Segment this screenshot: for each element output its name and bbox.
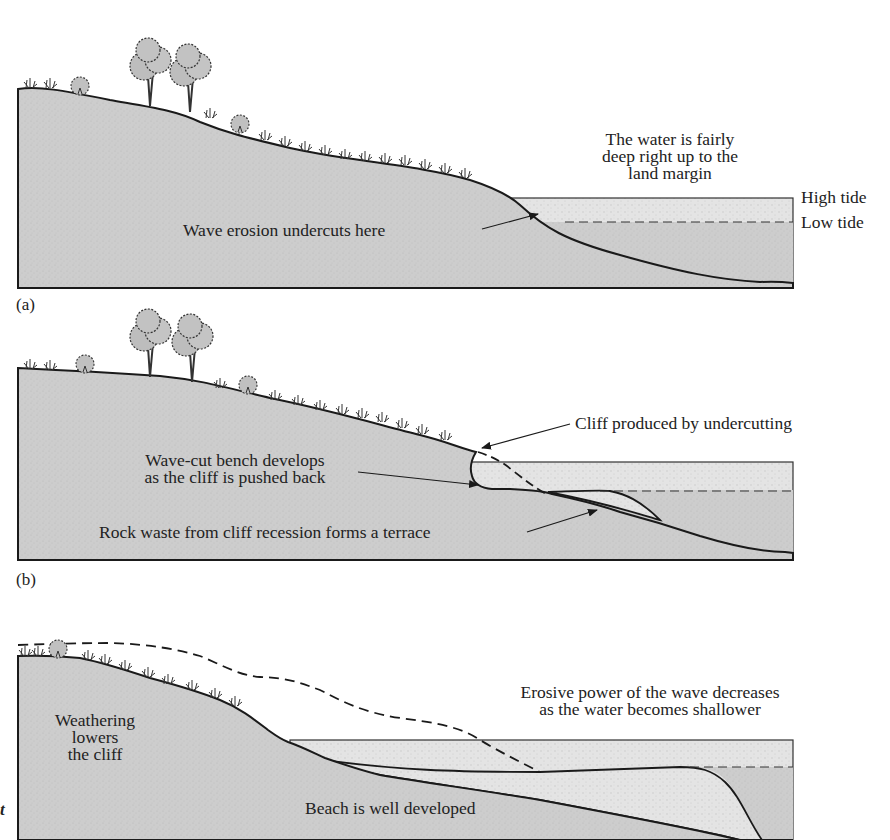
panel-c-weathering-line3: the cliff <box>35 746 155 763</box>
panel-a-water-note-line3: land margin <box>550 165 790 182</box>
panel-c-weathering-label: Weathering lowers the cliff <box>35 712 155 763</box>
panel-b-tag: (b) <box>16 570 36 590</box>
low-tide-label: Low tide <box>801 214 864 231</box>
high-tide-label: High tide <box>801 189 867 206</box>
panel-b-bench-label: Wave-cut bench develops as the cliff is … <box>110 452 360 486</box>
panel-c-tag: t <box>0 800 5 820</box>
panel-c-erosive-label: Erosive power of the wave decreases as t… <box>480 684 820 718</box>
panel-a-undercut-label: Wave erosion undercuts here <box>183 222 385 239</box>
panel-b-cliff-label: Cliff produced by undercutting <box>575 415 792 432</box>
panel-c-beach-label: Beach is well developed <box>305 800 476 817</box>
panel-c-erosive-line2: as the water becomes shallower <box>480 701 820 718</box>
panel-a-tag: (a) <box>16 295 35 315</box>
panel-a-water-note: The water is fairly deep right up to the… <box>550 131 790 182</box>
panel-b-cliff-arrow <box>482 424 570 448</box>
panel-b-bench-line2: as the cliff is pushed back <box>110 469 360 486</box>
panel-b-terrace-label: Rock waste from cliff recession forms a … <box>99 524 431 541</box>
